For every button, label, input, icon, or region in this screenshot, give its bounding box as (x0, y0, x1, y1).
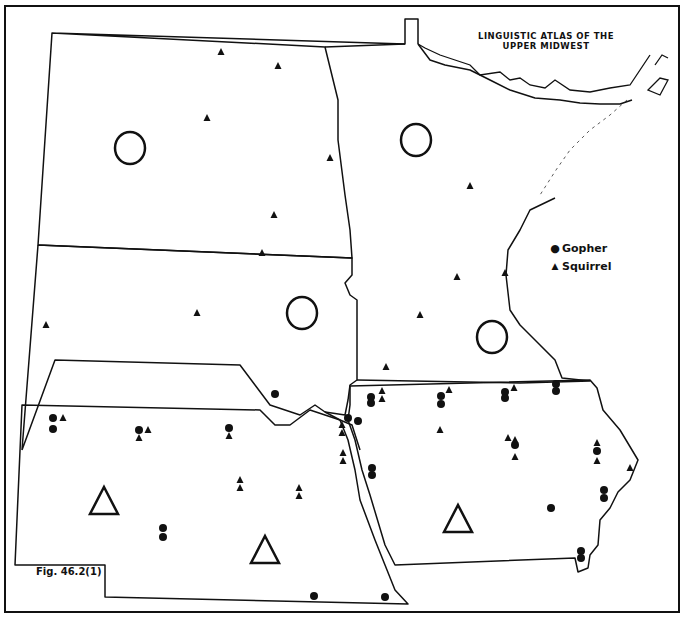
gopher-point (159, 524, 167, 532)
squirrel-point (379, 395, 386, 402)
squirrel-point (194, 309, 201, 316)
gopher-point (600, 494, 608, 502)
squirrel-point (454, 273, 461, 280)
squirrel-point (340, 457, 347, 464)
large-open-circle (115, 132, 145, 164)
lake-superior-shore (418, 44, 668, 95)
large-open-triangle (251, 536, 279, 563)
gopher-point (354, 417, 362, 425)
large-open-circle (287, 297, 317, 329)
gopher-point (310, 592, 318, 600)
wisconsin-shore (540, 100, 627, 195)
squirrel-point (259, 249, 266, 256)
squirrel-point (594, 457, 601, 464)
squirrel-point (136, 434, 143, 441)
large-open-circles (115, 124, 507, 353)
gopher-point (135, 426, 143, 434)
gopher-point (552, 380, 560, 388)
gopher-point (368, 464, 376, 472)
gopher-point (367, 399, 375, 407)
squirrel-point (383, 363, 390, 370)
squirrel-point (627, 464, 634, 471)
gopher-point (437, 400, 445, 408)
squirrel-point (379, 387, 386, 394)
map-title-line2: UPPER MIDWEST (466, 41, 626, 51)
squirrel-point (340, 449, 347, 456)
gopher-point (577, 554, 585, 562)
large-open-triangle (90, 487, 118, 514)
gopher-point (437, 392, 445, 400)
gopher-point (159, 533, 167, 541)
gopher-point (577, 547, 585, 555)
squirrel-point (275, 62, 282, 69)
filled-triangle-icon: ▲ (548, 261, 562, 271)
legend: ● Gopher ▲ Squirrel (548, 239, 611, 275)
squirrel-point (218, 48, 225, 55)
large-open-triangles (90, 487, 472, 563)
squirrel-point (512, 453, 519, 460)
squirrel-point (502, 269, 509, 276)
squirrel-point (271, 211, 278, 218)
squirrel-point (467, 182, 474, 189)
gopher-point (225, 424, 233, 432)
state-boundaries (15, 19, 638, 604)
squirrel-point (60, 414, 67, 421)
north-dakota-outline (38, 19, 418, 258)
squirrel-point (296, 492, 303, 499)
gopher-point (600, 486, 608, 494)
legend-item-squirrel: ▲ Squirrel (548, 257, 611, 275)
gopher-point (368, 471, 376, 479)
gopher-point (547, 504, 555, 512)
squirrel-point (511, 384, 518, 391)
squirrel-point (594, 439, 601, 446)
large-open-triangle (444, 505, 472, 532)
squirrel-point (417, 311, 424, 318)
squirrel-point (446, 386, 453, 393)
legend-label-gopher: Gopher (562, 242, 607, 255)
gopher-point (593, 447, 601, 455)
large-open-circle (401, 124, 431, 156)
gopher-point (552, 387, 560, 395)
map-border (5, 6, 679, 612)
gopher-point (344, 414, 352, 422)
gopher-point (381, 593, 389, 601)
squirrel-point (505, 434, 512, 441)
squirrel-point (512, 436, 519, 443)
map (0, 0, 684, 618)
squirrel-point (237, 476, 244, 483)
squirrel-point (43, 321, 50, 328)
south-dakota-outline (22, 245, 357, 450)
filled-circle-icon: ● (548, 242, 562, 255)
figure-label: Fig. 46.2(1) (36, 566, 101, 577)
gopher-point (49, 414, 57, 422)
squirrel-point (226, 432, 233, 439)
map-title-line1: LINGUISTIC ATLAS OF THE (466, 31, 626, 41)
squirrel-point (437, 426, 444, 433)
squirrel-point (296, 484, 303, 491)
legend-label-squirrel: Squirrel (562, 260, 611, 273)
squirrel-point (204, 114, 211, 121)
gopher-point (271, 390, 279, 398)
squirrel-point (145, 426, 152, 433)
squirrel-point (237, 484, 244, 491)
iowa-outline (348, 380, 638, 572)
gopher-point (49, 425, 57, 433)
gopher-point (501, 394, 509, 402)
legend-item-gopher: ● Gopher (548, 239, 611, 257)
map-title: LINGUISTIC ATLAS OF THE UPPER MIDWEST (466, 31, 626, 51)
large-open-circle (477, 321, 507, 353)
squirrel-point (327, 154, 334, 161)
